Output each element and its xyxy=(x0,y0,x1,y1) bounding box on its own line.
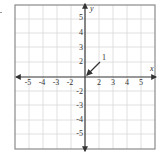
x-tick-label: -2 xyxy=(67,78,74,87)
x-tick-label: -3 xyxy=(53,78,60,87)
y-tick-label: -3 xyxy=(76,101,83,110)
y-tick-label: 2 xyxy=(79,57,83,66)
x-tick-label: 4 xyxy=(125,78,129,87)
y-tick-labels: 5 4 3 2 -2 -3 -4 -5 xyxy=(76,13,83,138)
y-axis-label: y xyxy=(89,4,94,13)
y-tick-label: 3 xyxy=(79,43,83,52)
y-tick-label: -5 xyxy=(76,129,83,138)
x-tick-label: -5 xyxy=(25,78,32,87)
coordinate-plane: x y -5 -4 -3 -2 2 3 4 5 5 4 3 2 -2 -3 -4… xyxy=(0,0,160,159)
y-tick-label: -4 xyxy=(76,115,83,124)
x-tick-label: 3 xyxy=(111,78,115,87)
origin-pointer-label: 1 xyxy=(102,53,106,62)
x-tick-label: 2 xyxy=(97,78,101,87)
y-tick-label: 4 xyxy=(79,28,83,37)
origin-pointer-arrow xyxy=(87,62,100,75)
x-axis-label: x xyxy=(149,64,154,73)
y-tick-label: 5 xyxy=(79,13,83,22)
y-tick-label: -2 xyxy=(76,87,83,96)
x-tick-labels: -5 -4 -3 -2 2 3 4 5 xyxy=(25,78,143,87)
x-tick-label: -4 xyxy=(39,78,46,87)
x-tick-label: 5 xyxy=(139,78,143,87)
